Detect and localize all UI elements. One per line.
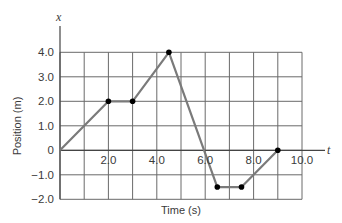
data-point-marker	[130, 99, 136, 105]
x-tick-label: 4.0	[149, 154, 165, 166]
y-axis-title: Position (m)	[11, 97, 23, 156]
data-point-marker	[166, 50, 172, 56]
position-time-chart: 2.04.06.08.010.04.03.02.01.00−1.0−2.0 x …	[0, 0, 342, 223]
y-tick-label: −2.0	[31, 193, 54, 205]
y-axis-variable: x	[55, 10, 62, 24]
y-tick-label: 0	[48, 144, 54, 156]
y-tick-label: 4.0	[38, 46, 54, 58]
data-line	[60, 52, 278, 187]
x-tick-label: 6.0	[197, 154, 213, 166]
grid	[60, 52, 302, 199]
x-axis-variable: t	[327, 143, 331, 157]
x-axis-title: Time (s)	[161, 204, 201, 216]
data-point-marker	[215, 184, 221, 190]
y-tick-label: 2.0	[38, 95, 54, 107]
data-point-marker	[239, 184, 245, 190]
y-tick-label: 3.0	[38, 71, 54, 83]
y-tick-label: 1.0	[38, 120, 54, 132]
x-tick-label: 8.0	[246, 154, 262, 166]
data-point-marker	[106, 99, 112, 105]
x-tick-label: 2.0	[100, 154, 116, 166]
x-tick-label: 10.0	[291, 154, 313, 166]
data-series	[60, 50, 281, 190]
data-point-marker	[275, 148, 281, 154]
y-tick-label: −1.0	[31, 169, 54, 181]
